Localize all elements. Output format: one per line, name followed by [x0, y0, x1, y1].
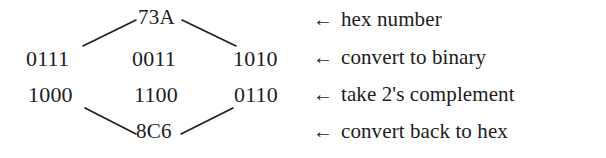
- annotation-row: ← convert back to hex: [313, 121, 508, 142]
- connector-top-left: [83, 20, 136, 46]
- binary-cell: 0111: [26, 48, 69, 70]
- hex-value-top: 73A: [138, 7, 175, 28]
- annotation-label: convert to binary: [341, 47, 486, 68]
- left-arrow-icon: ←: [313, 84, 333, 104]
- annotation-row: ← hex number: [313, 9, 442, 30]
- binary-row-original: 0111 0011 1010: [0, 48, 300, 72]
- annotation-label: take 2's complement: [341, 84, 515, 105]
- left-arrow-icon: ←: [313, 9, 333, 29]
- annotation-label: convert back to hex: [341, 121, 508, 142]
- left-arrow-icon: ←: [313, 47, 333, 67]
- binary-row-complement: 1000 1100 0110: [0, 84, 300, 108]
- annotation-row: ← take 2's complement: [313, 84, 515, 105]
- binary-cell: 0110: [234, 84, 278, 106]
- connector-bottom-left: [85, 108, 136, 134]
- connector-top-right: [182, 20, 236, 46]
- binary-cell: 0011: [132, 48, 176, 70]
- binary-cell: 1010: [233, 48, 278, 70]
- connector-bottom-right: [181, 108, 233, 134]
- binary-cell: 1100: [134, 84, 178, 106]
- annotation-column: ← hex number ← convert to binary ← take …: [313, 0, 606, 158]
- hex-conversion-diagram: 73A 0111 0011 1010 1000 1100 0110 8C6 ← …: [0, 0, 606, 158]
- binary-cell: 1000: [28, 84, 73, 106]
- annotation-row: ← convert to binary: [313, 47, 486, 68]
- hex-value-bottom: 8C6: [136, 121, 172, 142]
- annotation-label: hex number: [341, 9, 442, 30]
- left-arrow-icon: ←: [313, 121, 333, 141]
